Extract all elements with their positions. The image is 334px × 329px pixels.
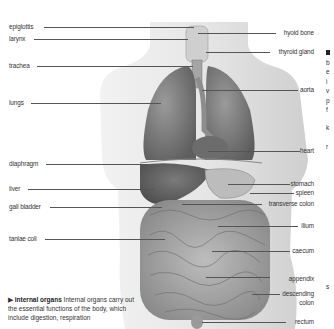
leader-line-taniae-coli — [45, 239, 165, 240]
fragment-text: f — [326, 105, 330, 114]
leader-line-epiglottis — [44, 27, 194, 28]
label-appendix: appendix — [289, 275, 314, 282]
leader-line-larynx — [34, 39, 188, 40]
leader-line-liver — [28, 189, 154, 190]
leader-line-ilium — [218, 226, 298, 227]
label-thyroid-gland: thyroid gland — [279, 48, 314, 55]
caption-arrow-icon: ▶ — [8, 296, 13, 303]
fragment-text: k — [326, 123, 330, 132]
label-aorta: aorta — [300, 86, 314, 93]
label-spleen: spleen — [296, 189, 314, 196]
leader-line-thyroid-gland — [206, 52, 270, 53]
label-stomach: stomach — [291, 180, 314, 187]
larynx-shape — [186, 26, 208, 62]
bullet-icon — [326, 50, 330, 55]
label-trachea: trachea — [9, 62, 30, 69]
fragment-text: e — [326, 67, 330, 76]
label-transverse-colon: transverse colon — [269, 200, 314, 207]
label-larynx: larynx — [9, 35, 25, 42]
label-gall-bladder: gall bladder — [9, 203, 41, 210]
label-hyoid-bone: hyoid bone — [284, 29, 314, 36]
leader-line-caecum — [212, 251, 290, 252]
label-heart: heart — [300, 147, 314, 154]
label-descending: descending — [282, 290, 314, 297]
leader-line-descending-colon — [252, 294, 280, 295]
leader-line-transverse-colon — [182, 204, 262, 205]
right-column-fragment: b e i v p f k r — [326, 50, 330, 151]
leader-line-appendix — [206, 277, 270, 278]
fragment-text: i — [326, 77, 330, 86]
caption-heading: internal organs — [15, 296, 62, 303]
label-epiglottis: epiglottis — [9, 23, 33, 30]
leader-line-aorta — [202, 90, 298, 91]
label-ilium: ilium — [301, 222, 314, 229]
leader-line-hyoid-bone — [198, 33, 276, 34]
leader-line-diaphragm — [46, 164, 150, 165]
leader-line-rectum — [202, 322, 286, 323]
label-colon: colon — [299, 299, 314, 306]
anatomy-diagram: epiglottis larynx trachea lungs diaphrag… — [0, 0, 334, 329]
leader-line-heart — [208, 151, 300, 152]
fragment-text: p — [326, 96, 330, 105]
intestines-shape — [140, 200, 270, 320]
caption: ▶ internal organs Internal organs carry … — [8, 295, 138, 322]
fragment-text: v — [326, 86, 330, 95]
right-column-fragment-s: s — [326, 282, 329, 291]
label-caecum: caecum — [292, 247, 314, 254]
leader-line-lungs — [31, 103, 161, 104]
label-taniae-coli: taniae coli — [9, 235, 37, 242]
label-lungs: lungs — [9, 99, 24, 106]
heart-shape — [192, 136, 228, 160]
fragment-text: r — [326, 142, 330, 151]
label-diaphragm: diaphragm — [9, 160, 38, 167]
label-liver: liver — [9, 185, 20, 192]
leader-line-gall-bladder — [50, 207, 162, 208]
leader-line-stomach — [228, 184, 290, 185]
label-rectum: rectum — [295, 318, 314, 325]
fragment-text: b — [326, 58, 330, 67]
leader-line-spleen — [250, 193, 294, 194]
leader-line-trachea — [37, 66, 193, 67]
